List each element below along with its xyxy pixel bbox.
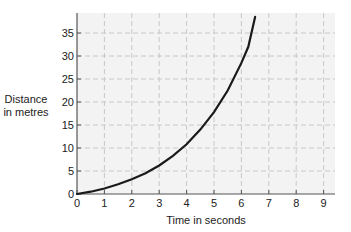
x-tick-label: 3 (156, 197, 162, 209)
x-tick-label: 4 (184, 197, 190, 209)
y-tick-label: 20 (62, 96, 74, 108)
y-tick-label: 0 (68, 188, 74, 200)
x-tick-label: 6 (238, 197, 244, 209)
x-tick-label: 0 (74, 197, 80, 209)
x-tick-label: 7 (266, 197, 272, 209)
y-tick-label: 15 (62, 119, 74, 131)
y-tick-label: 35 (62, 27, 74, 39)
y-axis-label-line2: in metres (3, 106, 49, 118)
x-tick-label: 8 (293, 197, 299, 209)
y-tick-label: 10 (62, 142, 74, 154)
x-tick-label: 2 (129, 197, 135, 209)
y-tick-label: 25 (62, 73, 74, 85)
y-axis-label-line1: Distance (5, 93, 48, 105)
y-tick-label: 30 (62, 50, 74, 62)
x-axis-label: Time in seconds (166, 214, 246, 226)
y-tick-label: 5 (68, 165, 74, 177)
distance-time-chart: 0123456789 05101520253035 Time in second… (0, 0, 351, 232)
x-tick-label: 5 (211, 197, 217, 209)
x-tick-label: 1 (101, 197, 107, 209)
x-tick-label: 9 (321, 197, 327, 209)
